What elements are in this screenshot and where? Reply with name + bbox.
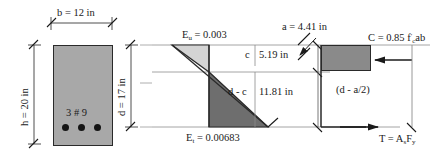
epsilon-u-value: = 0.003: [195, 29, 227, 40]
rebar-dot: [94, 124, 101, 131]
compression-force-subscript: c: [412, 37, 415, 45]
beam-cross-section: [53, 45, 113, 146]
label-rebar-count: 3 # 9: [66, 108, 87, 119]
label-compression-force: C = 0.85 f′cab: [368, 33, 425, 44]
label-moment-arm: (d - a/2): [336, 85, 370, 96]
whitney-stress-block: [321, 45, 371, 71]
tension-force-subscript-y: y: [412, 138, 416, 146]
dimension-d-minus-c: [255, 72, 322, 132]
compression-force-prefix: C = 0.85 f: [368, 32, 411, 43]
label-dc-value: 11.81 in: [259, 87, 293, 98]
tension-force-prefix: T = A: [379, 133, 403, 144]
label-width-b: b = 12 in: [57, 8, 95, 19]
dimension-d: [125, 40, 152, 131]
label-c-symbol: c: [245, 50, 250, 61]
label-height-h: h = 20 in: [20, 88, 31, 126]
label-c-value: 5.19 in: [259, 50, 288, 61]
label-dc-symbol: d - c: [228, 87, 247, 98]
compression-force-arrow: [375, 45, 412, 60]
epsilon-t-value: = 0.00683: [197, 132, 240, 143]
strain-bottom-leader: [268, 118, 278, 127]
label-depth-d: d = 17 in: [117, 78, 128, 116]
epsilon-u-subscript: u: [188, 34, 192, 42]
strain-triangles: [172, 45, 268, 127]
rebar-dot: [62, 124, 69, 131]
label-strain-ultimate: Eu = 0.003: [182, 30, 227, 41]
dimension-b: [47, 17, 117, 30]
tension-force-subscript-s: s: [403, 138, 406, 146]
moment-arm-line: [407, 60, 416, 132]
label-tension-force: T = AsFy: [379, 134, 415, 145]
compression-force-suffix: ab: [415, 32, 425, 43]
leader-a-dimension: [298, 33, 316, 60]
rebar-dot: [78, 124, 85, 131]
label-strain-tensile: Et = 0.00683: [186, 133, 240, 144]
beam-analysis-figure: b = 12 in h = 20 in d = 17 in 3 # 9 Eu =…: [0, 0, 445, 157]
label-a-dimension: a = 4.41 in: [282, 22, 327, 33]
